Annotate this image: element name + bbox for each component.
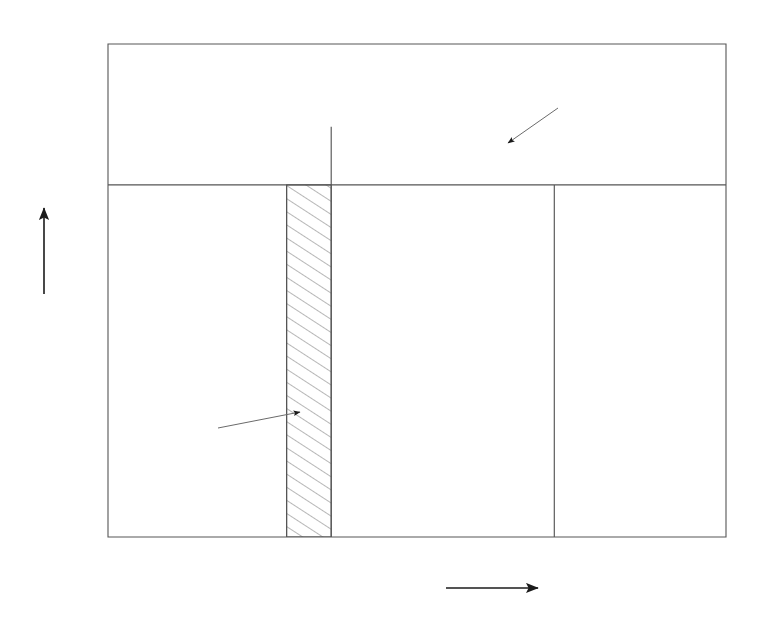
chart-canvas (0, 0, 771, 618)
equal-area-criterion-figure (0, 0, 771, 618)
plot-frame (108, 44, 726, 537)
a2-leader-arrow (508, 108, 558, 143)
a1-hatched-rect (287, 185, 332, 537)
annotation-a2 (508, 108, 558, 143)
shaded-region-a1 (287, 185, 332, 537)
